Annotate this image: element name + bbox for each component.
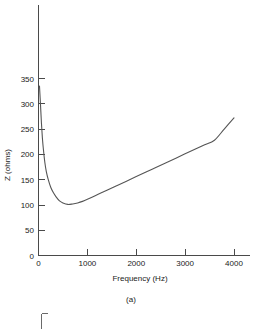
x-tick-label-1000: 1000 xyxy=(79,259,97,268)
y-tick-label-250: 250 xyxy=(21,125,35,134)
y-tick-label-350: 350 xyxy=(21,75,35,84)
x-tick-label-0: 0 xyxy=(36,259,41,268)
y-tick-label-200: 200 xyxy=(21,150,35,159)
y-tick-label-0: 0 xyxy=(30,252,35,261)
x-axis-title: Frequency (Hz) xyxy=(112,274,167,283)
figure-caption: (a) xyxy=(126,295,136,304)
impedance-figure: 350 300 250 200 150 100 50 0 0 1000 2000… xyxy=(0,0,254,329)
chart-axes xyxy=(39,5,251,256)
y-axis-tick-labels: 350 300 250 200 150 100 50 0 xyxy=(21,75,35,261)
x-tick-label-4000: 4000 xyxy=(225,259,243,268)
x-axis-tick-labels: 0 1000 2000 3000 4000 xyxy=(36,259,243,268)
impedance-chart: 350 300 250 200 150 100 50 0 0 1000 2000… xyxy=(0,0,254,329)
x-tick-label-2000: 2000 xyxy=(127,259,145,268)
impedance-curve xyxy=(39,86,234,204)
x-tick-label-3000: 3000 xyxy=(176,259,194,268)
y-tick-label-300: 300 xyxy=(21,100,35,109)
y-tick-label-150: 150 xyxy=(21,176,35,185)
y-tick-label-100: 100 xyxy=(21,201,35,210)
y-tick-label-50: 50 xyxy=(25,226,34,235)
next-figure-corner-mark xyxy=(42,314,49,329)
y-axis-title: Z (ohms) xyxy=(3,149,12,181)
x-axis-ticks xyxy=(39,249,235,256)
